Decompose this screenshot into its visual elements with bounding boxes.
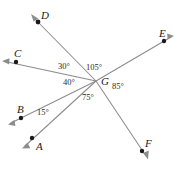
point-dot-B [19,116,23,120]
point-dot-E [162,39,166,43]
point-label-G: G [101,76,109,87]
angle-diagram: A B C D E F G 30° 105° 40° 85° 75° 15° [0,0,175,169]
angle-label-DGE: 105° [86,63,102,72]
point-label-C: C [14,48,21,59]
point-label-A: A [36,141,43,152]
ray-GF [96,81,149,160]
angle-label-EGF: 85° [112,82,124,91]
angle-label-BGA: 15° [37,108,49,117]
point-label-F: F [145,138,152,149]
point-label-D: D [41,10,49,21]
point-dot-A [30,136,34,140]
angle-label-CGD: 30° [58,62,70,71]
point-dot-C [14,60,18,64]
point-dot-D [36,20,41,25]
angle-label-CGB: 40° [63,78,75,87]
point-label-E: E [159,28,166,39]
point-dot-F [140,149,144,153]
point-label-B: B [17,104,24,115]
angle-label-AGF: 75° [82,93,94,102]
